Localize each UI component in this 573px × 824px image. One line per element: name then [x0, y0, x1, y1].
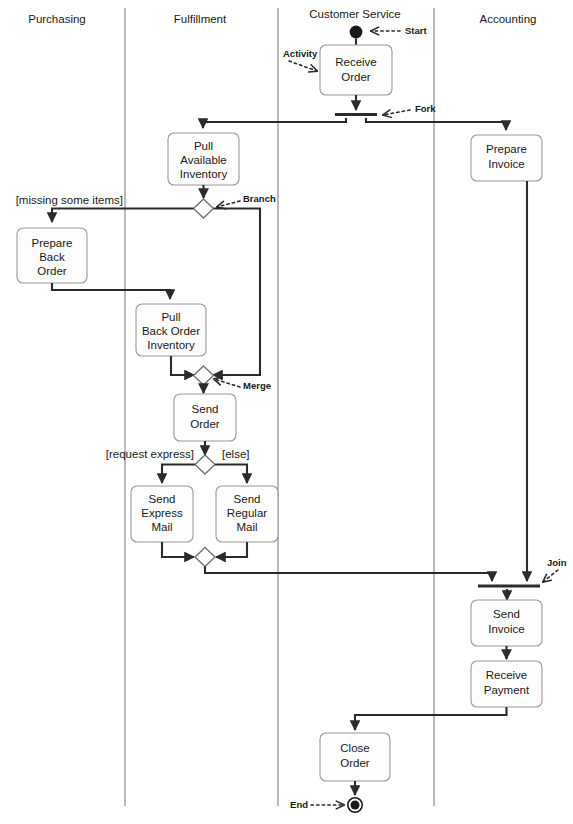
- flow-send-express-mail-to-mail-merge: [162, 542, 194, 557]
- fork-annotation-leader: [383, 110, 410, 115]
- guard-missing-some-items: [missing some items]: [16, 194, 123, 206]
- activity-annotation-leader: [289, 61, 317, 71]
- activity-prepare-back-order-line-3: Order: [37, 265, 67, 277]
- lane-header-purchasing: Purchasing: [28, 13, 86, 25]
- flow-mail-branch-to-send-express-mail: [162, 465, 195, 484]
- activity-receive-payment-line-2: Payment: [484, 684, 530, 696]
- activity-send-express-mail-line-2: Express: [141, 507, 183, 519]
- lane-header-customer-service: Customer Service: [309, 8, 400, 20]
- activity-prepare-back-order-line-1: Prepare: [32, 237, 73, 249]
- activity-prepare-back-order-line-2: Back: [39, 251, 65, 263]
- activity-pull-available-inventory-line-1: Pull: [194, 140, 213, 152]
- lane-header-fulfillment: Fulfillment: [174, 13, 227, 25]
- activity-close-order-line-1: Close: [340, 742, 369, 754]
- activity-send-express-mail-line-3: Mail: [151, 521, 172, 533]
- branch-annotation-leader: [217, 201, 240, 207]
- activity-pull-available-inventory-line-3: Inventory: [180, 168, 228, 180]
- annotation-fork: Fork: [415, 103, 436, 114]
- activity-receive-order-line-2: Order: [341, 71, 371, 83]
- annotation-activity: Activity: [283, 48, 318, 59]
- activity-pull-back-order-inventory-line-2: Back Order: [142, 325, 200, 337]
- activity-prepare-invoice-line-1: Prepare: [486, 143, 527, 155]
- end-node-dot: [351, 801, 360, 810]
- activity-diagram-svg: Purchasing Fulfillment Customer Service …: [0, 0, 573, 824]
- activity-pull-back-order-inventory-line-3: Inventory: [147, 339, 195, 351]
- flow-send-regular-mail-to-mail-merge: [216, 542, 247, 557]
- merge-annotation-leader: [214, 379, 240, 387]
- flow-fork-to-pull-available-inventory: [203, 118, 346, 128]
- annotation-branch: Branch: [243, 193, 276, 204]
- flow-pull-back-order-inventory-to-merge: [171, 356, 194, 375]
- flow-branch-to-prepare-back-order: [52, 209, 194, 223]
- annotation-end: End: [290, 799, 308, 810]
- flow-prepare-back-order-to-pull-back-order-inventory: [52, 283, 170, 299]
- activity-pull-back-order-inventory-line-1: Pull: [161, 311, 180, 323]
- flow-receive-payment-to-close-order: [355, 707, 507, 730]
- activity-send-regular-mail-line-1: Send: [234, 493, 261, 505]
- start-node: [350, 26, 363, 39]
- activity-send-invoice-line-2: Invoice: [488, 623, 524, 635]
- annotation-join: Join: [547, 557, 567, 568]
- annotation-merge: Merge: [243, 380, 271, 391]
- activity-send-invoice-line-1: Send: [493, 608, 520, 620]
- activity-send-order-line-1: Send: [192, 403, 219, 415]
- mail-merge-node[interactable]: [195, 548, 215, 567]
- activity-send-regular-mail-line-3: Mail: [236, 521, 257, 533]
- activity-close-order-line-2: Order: [340, 757, 370, 769]
- branch-node[interactable]: [194, 199, 214, 218]
- activity-pull-available-inventory-line-2: Available: [180, 154, 226, 166]
- annotation-start: Start: [405, 25, 427, 36]
- join-annotation-leader: [543, 570, 558, 582]
- flow-mail-merge-to-join: [205, 567, 492, 582]
- activity-receive-order[interactable]: [320, 45, 392, 95]
- flow-branch-to-merge: [213, 209, 260, 376]
- flow-fork-to-prepare-invoice: [366, 118, 506, 130]
- merge-node[interactable]: [194, 366, 214, 385]
- guard-else: [else]: [222, 448, 250, 460]
- flow-mail-branch-to-send-regular-mail: [215, 465, 247, 484]
- activity-prepare-invoice-line-2: Invoice: [488, 158, 524, 170]
- mail-branch-node[interactable]: [195, 455, 215, 474]
- activity-send-express-mail-line-1: Send: [149, 493, 176, 505]
- activity-send-regular-mail-line-2: Regular: [227, 507, 267, 519]
- guard-request-express: [request express]: [106, 448, 194, 460]
- activity-receive-payment-line-1: Receive: [486, 669, 528, 681]
- activity-receive-order-line-1: Receive: [335, 56, 377, 68]
- lane-header-accounting: Accounting: [480, 13, 537, 25]
- activity-diagram-canvas: Purchasing Fulfillment Customer Service …: [0, 0, 573, 824]
- activity-send-order-line-2: Order: [190, 418, 220, 430]
